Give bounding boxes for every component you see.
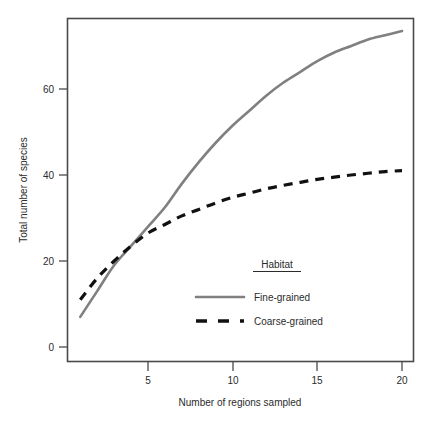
legend-title: Habitat — [261, 259, 293, 270]
plot-frame — [68, 19, 414, 362]
chart-figure: 0 20 40 60 5 10 15 20 Number of regions … — [0, 0, 431, 424]
y-axis-title: Total number of species — [18, 137, 29, 243]
x-tick-label-5: 5 — [145, 375, 151, 386]
data-series-group — [80, 31, 402, 317]
legend: Habitat Fine-grained Coarse-grained — [196, 259, 323, 327]
y-tick-label-40: 40 — [43, 170, 55, 181]
x-tick-label-15: 15 — [311, 375, 323, 386]
x-tick-label-20: 20 — [396, 375, 408, 386]
y-tick-label-20: 20 — [43, 256, 55, 267]
legend-label-coarse-grained: Coarse-grained — [254, 316, 323, 327]
legend-label-fine-grained: Fine-grained — [254, 292, 310, 303]
y-tick-label-60: 60 — [43, 84, 55, 95]
species-accumulation-chart: 0 20 40 60 5 10 15 20 Number of regions … — [0, 0, 431, 424]
series-line-coarse-grained — [80, 171, 402, 300]
y-axis-ticks — [59, 89, 67, 347]
y-tick-label-0: 0 — [48, 342, 54, 353]
x-axis-title: Number of regions sampled — [179, 397, 302, 408]
x-tick-label-10: 10 — [227, 375, 239, 386]
x-axis-ticks — [148, 362, 402, 371]
